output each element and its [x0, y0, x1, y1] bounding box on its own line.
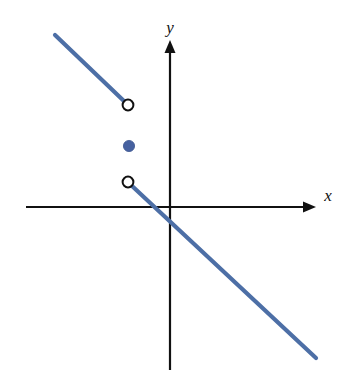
lower-branch-segment [132, 186, 317, 359]
x-axis-arrowhead-icon [303, 202, 316, 213]
graph-figure: x y [0, 0, 343, 381]
open-circle-upper-point [123, 100, 134, 111]
coordinate-plane-svg: x y [0, 0, 343, 381]
y-axis-arrowhead-icon [165, 40, 176, 53]
x-axis-label: x [323, 186, 332, 205]
y-axis-label: y [164, 18, 174, 37]
open-circle-lower-point [123, 177, 134, 188]
y-axis [165, 40, 176, 370]
filled-dot-point [123, 140, 134, 151]
upper-branch-segment [55, 35, 126, 103]
